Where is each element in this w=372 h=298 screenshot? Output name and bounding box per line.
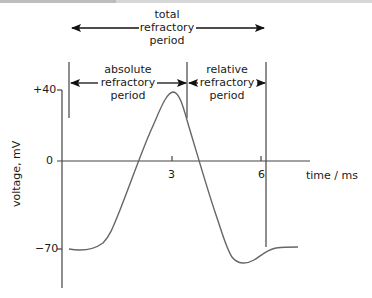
y-tick-zero: 0 xyxy=(46,155,53,167)
x-tick-3: 3 xyxy=(168,169,175,181)
y-axis xyxy=(57,90,62,288)
absolute-refractory-label: absolute refractory period xyxy=(98,63,158,102)
y-tick-plus40: +40 xyxy=(33,84,56,96)
label-line: absolute xyxy=(98,63,158,76)
x-tick-6: 6 xyxy=(258,169,265,181)
total-refractory-label: total refractory period xyxy=(137,8,197,47)
label-line: period xyxy=(98,89,158,102)
label-line: relative xyxy=(197,63,257,76)
y-tick-minus70: −70 xyxy=(35,243,58,255)
label-line: total xyxy=(137,8,197,21)
relative-refractory-label: relative refractory period xyxy=(197,63,257,102)
x-axis xyxy=(57,156,310,161)
label-line: refractory xyxy=(197,76,257,89)
x-axis-label: time / ms xyxy=(306,170,358,182)
label-line: refractory xyxy=(137,21,197,34)
label-line: period xyxy=(137,34,197,47)
y-axis-label: voltage, mV xyxy=(10,141,23,207)
label-line: refractory xyxy=(98,76,158,89)
label-line: period xyxy=(197,89,257,102)
